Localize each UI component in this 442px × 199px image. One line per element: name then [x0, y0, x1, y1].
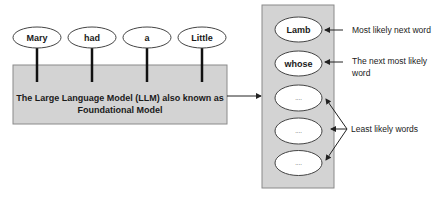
input-token-label: Mary: [26, 33, 47, 43]
output-candidate: ....: [275, 85, 322, 111]
output-candidate: ....: [275, 151, 322, 176]
input-token: had: [68, 27, 116, 48]
llm-label-line2: Foundational Model: [78, 105, 163, 115]
output-candidate-label: whose: [283, 59, 312, 69]
input-token-label: Little: [191, 33, 213, 43]
input-token: a: [123, 27, 171, 48]
annotation-next-most-likely-line1: The next most likely: [352, 56, 428, 66]
llm-label-line1: The Large Language Model (LLM) also know…: [16, 93, 224, 103]
output-candidate-label: ....: [295, 160, 302, 166]
llm-next-word-diagram: The Large Language Model (LLM) also know…: [0, 0, 442, 199]
annotation-least-likely: Least likely words: [351, 124, 418, 134]
output-candidate: ....: [275, 118, 322, 144]
input-token: Mary: [13, 27, 61, 48]
annotation-most-likely: Most likely next word: [352, 25, 431, 35]
output-candidate: Lamb: [275, 17, 322, 42]
output-candidate-label: ....: [295, 128, 302, 134]
annotation-next-most-likely-line2: word: [351, 68, 371, 78]
output-candidate-label: ....: [295, 95, 302, 101]
input-token-label: had: [84, 33, 100, 43]
input-token: Little: [178, 27, 226, 48]
output-candidate-label: Lamb: [286, 25, 311, 35]
output-candidate: whose: [275, 51, 322, 76]
